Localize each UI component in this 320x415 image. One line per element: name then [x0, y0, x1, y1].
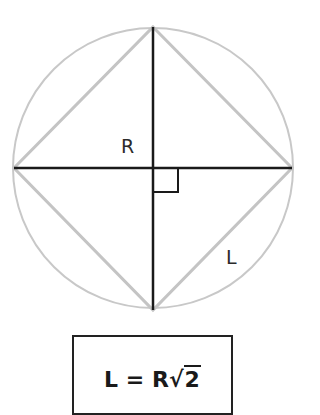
formula-radicand: 2 [184, 365, 201, 392]
square-root: √2 [169, 367, 201, 392]
formula: L = R√2 [74, 367, 231, 392]
right-angle-marker [153, 168, 178, 192]
sqrt-symbol-icon: √ [169, 367, 184, 392]
formula-coef: R [152, 367, 169, 392]
side-label: L [226, 248, 237, 267]
radius-label: R [121, 137, 134, 156]
formula-equals: = [126, 367, 144, 392]
formula-box: L = R√2 [72, 335, 233, 415]
formula-lhs: L [104, 367, 118, 392]
